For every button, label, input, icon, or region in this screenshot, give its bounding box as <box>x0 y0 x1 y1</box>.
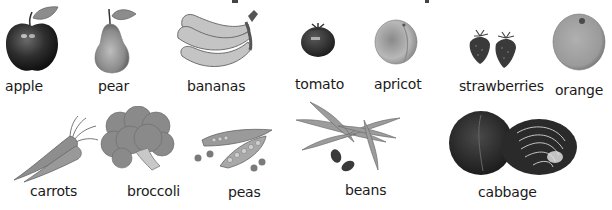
label-cabbage: cabbage <box>478 184 537 200</box>
label-carrots: carrots <box>30 183 77 199</box>
pear-icon <box>88 4 142 76</box>
apricot-icon <box>374 18 420 66</box>
label-bananas: bananas <box>187 78 245 94</box>
heading-fragment <box>232 0 238 3</box>
label-peas: peas <box>228 184 261 200</box>
label-beans: beans <box>345 182 386 198</box>
peas-icon <box>190 128 276 176</box>
broccoli-icon <box>100 106 176 178</box>
label-apricot: apricot <box>374 76 421 92</box>
bananas-icon <box>174 8 262 78</box>
heading-fragment <box>425 0 429 3</box>
apple-icon <box>2 4 62 76</box>
carrots-icon <box>10 116 98 184</box>
tomato-icon <box>298 20 340 60</box>
label-apple: apple <box>5 78 43 94</box>
beans-icon <box>292 98 416 176</box>
label-broccoli: broccoli <box>127 183 180 199</box>
label-orange: orange <box>555 82 603 98</box>
label-strawberries: strawberries <box>459 78 544 94</box>
label-tomato: tomato <box>295 76 344 92</box>
cabbage-icon <box>447 109 581 177</box>
orange-icon <box>552 12 608 72</box>
strawberries-icon <box>466 28 522 70</box>
label-pear: pear <box>98 78 129 94</box>
